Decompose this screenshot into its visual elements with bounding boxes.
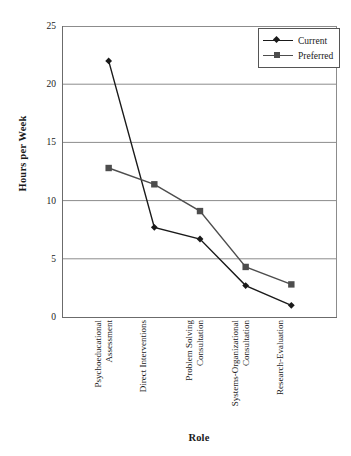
data-point-marker [288, 302, 295, 309]
legend-marker-square-icon [274, 52, 280, 58]
x-tick-label: PsychoeducationalAssessment [93, 320, 123, 432]
plot-area [62, 26, 337, 318]
chart-figure: Hours per Week 0510152025 Psychoeducatio… [0, 0, 351, 456]
y-tick-label: 0 [10, 312, 56, 322]
x-tick-label-line: Assessment [103, 320, 114, 432]
plot-svg [63, 26, 337, 317]
legend-key-icon [263, 49, 293, 63]
legend-item-preferred[interactable]: Preferred [263, 48, 333, 63]
x-tick-label: Direct Interventions [138, 320, 168, 432]
legend-label: Current [293, 36, 327, 46]
data-point-marker [105, 58, 112, 65]
x-tick-label-line: Psychoeducational [93, 320, 104, 432]
x-tick-label: Problem SolvingConsultation [184, 320, 214, 432]
x-axis-title: Role [62, 432, 336, 443]
data-point-marker [105, 165, 111, 171]
data-point-marker [151, 181, 157, 187]
x-tick-label-line: Consultation [195, 320, 206, 432]
x-tick-label-line: Research-Evaluation [275, 320, 286, 432]
data-point-marker [242, 264, 248, 270]
x-tick-label-line: Systems-Organizational [230, 320, 241, 432]
legend-item-current[interactable]: Current [263, 33, 333, 48]
y-tick-label: 5 [10, 254, 56, 264]
legend-label: Preferred [293, 51, 333, 61]
x-tick-label: Research-Evaluation [275, 320, 305, 432]
y-tick-label: 10 [10, 196, 56, 206]
data-point-marker [151, 224, 158, 231]
x-tick-label-line: Direct Interventions [138, 320, 149, 432]
legend-marker-diamond-icon [273, 36, 280, 43]
data-point-marker [197, 208, 203, 214]
y-tick-label: 15 [10, 137, 56, 147]
series-line-preferred [109, 168, 292, 284]
y-tick-label: 20 [10, 79, 56, 89]
data-point-marker [288, 281, 294, 287]
x-tick-label: Systems-OrganizationalConsultation [230, 320, 260, 432]
x-axis-tick-labels: PsychoeducationalAssessmentDirect Interv… [62, 320, 336, 432]
series-line-current [109, 61, 292, 305]
x-tick-label-line: Consultation [240, 320, 251, 432]
y-tick-label: 25 [10, 21, 56, 31]
legend-key-icon [263, 34, 293, 48]
chart-legend: CurrentPreferred [258, 28, 340, 68]
x-tick-label-line: Problem Solving [184, 320, 195, 432]
y-axis-tick-labels: 0510152025 [6, 26, 56, 317]
